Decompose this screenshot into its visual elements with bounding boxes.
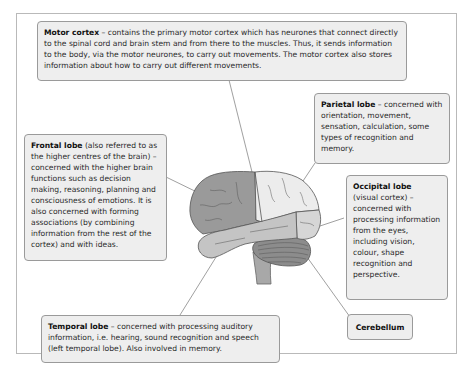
temporal-lobe-label: Temporal lobe – concerned with processin… xyxy=(41,315,280,363)
motor-cortex-title: Motor cortex xyxy=(44,28,99,37)
occipital-lobe-label: Occipital lobe (visual cortex) – concern… xyxy=(346,175,448,300)
occipital-lobe-title: Occipital lobe xyxy=(353,182,412,191)
cerebellum-label: Cerebellum xyxy=(347,314,413,340)
parietal-lobe-label: Parietal lobe – concerned with orientati… xyxy=(314,93,450,164)
occipital-lobe-region xyxy=(296,210,321,239)
motor-cortex-label: Motor cortex – contains the primary moto… xyxy=(37,21,407,81)
parietal-lobe-title: Parietal lobe xyxy=(321,100,375,109)
cerebellum-title: Cerebellum xyxy=(356,323,405,332)
occipital-lobe-text: (visual cortex) – concerned with process… xyxy=(353,193,440,279)
frontal-lobe-title: Frontal lobe xyxy=(31,141,82,150)
frontal-lobe-label: Frontal lobe (also referred to as the hi… xyxy=(24,134,167,261)
frontal-lobe-text: (also referred to as the higher centres … xyxy=(31,141,157,249)
temporal-lobe-title: Temporal lobe xyxy=(48,322,108,331)
